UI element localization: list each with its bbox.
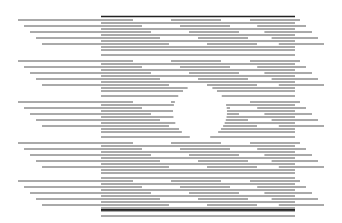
- line-pattern: [18, 17, 324, 217]
- illusory-circle-figure: [0, 0, 342, 223]
